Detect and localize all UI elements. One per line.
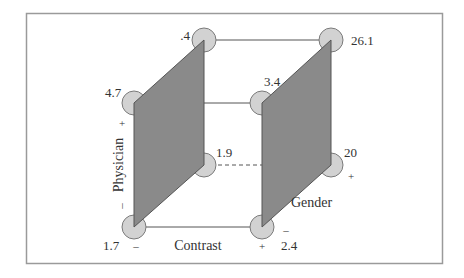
value-back-bottom-right: 20	[344, 145, 357, 160]
value-back-top-left: .4	[180, 28, 190, 43]
contrast-minus-sign: –	[132, 240, 139, 252]
value-front-bottom-right: 2.4	[281, 238, 298, 253]
value-front-top-left: 4.7	[105, 85, 122, 100]
axis-label-contrast: Contrast	[174, 238, 222, 253]
gender-plus-sign: +	[348, 170, 354, 182]
gender-minus-sign: –	[282, 224, 289, 236]
value-back-top-right: 26.1	[351, 33, 374, 48]
physician-minus-sign: –	[115, 203, 127, 210]
value-front-bottom-left: 1.7	[103, 238, 120, 253]
value-front-top-right: 3.4	[264, 74, 281, 89]
frame	[27, 14, 443, 264]
panel-contrast-minus	[134, 40, 204, 227]
axis-label-physician: Physician	[111, 138, 126, 192]
value-back-bottom-left: 1.9	[216, 145, 232, 160]
axis-label-gender: Gender	[291, 195, 333, 210]
physician-plus-sign: +	[119, 117, 125, 129]
contrast-plus-sign: +	[259, 240, 265, 252]
cube-diagram: .4 26.1 4.7 3.4 1.9 20 1.7 2.4 Physician…	[0, 0, 464, 278]
